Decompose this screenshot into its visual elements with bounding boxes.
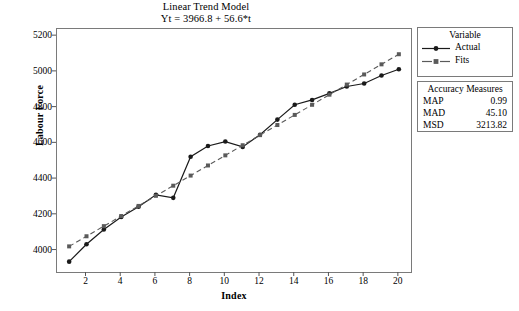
accuracy-value-msd: 3213.82 — [476, 119, 507, 131]
accuracy-row-mad: MAD 45.10 — [418, 107, 512, 119]
accuracy-value-map: 0.99 — [490, 95, 507, 107]
legend-item-actual[interactable]: Actual — [418, 41, 512, 54]
x-axis-tick-labels: 2468101214161820 — [0, 276, 519, 290]
x-tick-label: 20 — [386, 276, 410, 286]
x-tick-label: 2 — [74, 276, 98, 286]
x-tick-label: 8 — [178, 276, 202, 286]
chart-title: Linear Trend Model — [0, 1, 412, 13]
x-tick-label: 16 — [316, 276, 340, 286]
plot-svg — [57, 29, 411, 272]
accuracy-label-map: MAP — [423, 95, 444, 107]
y-tick-label: 4000 — [12, 245, 52, 255]
x-tick-label: 6 — [143, 276, 167, 286]
y-tick-label: 5200 — [12, 30, 52, 40]
accuracy-label-msd: MSD — [423, 119, 444, 131]
y-tick-label: 4600 — [12, 137, 52, 147]
legend-label-actual: Actual — [451, 41, 480, 54]
chart-subtitle-equation: Yt = 3966.8 + 56.6*t — [0, 13, 412, 25]
x-tick-label: 18 — [351, 276, 375, 286]
plot-area — [56, 28, 412, 273]
x-tick-label: 10 — [212, 276, 236, 286]
accuracy-row-msd: MSD 3213.82 — [418, 119, 512, 131]
y-tick-label: 4400 — [12, 173, 52, 183]
legend-label-fits: Fits — [451, 54, 469, 67]
accuracy-measures-title: Accuracy Measures — [418, 82, 512, 95]
accuracy-row-map: MAP 0.99 — [418, 95, 512, 107]
y-tick-label: 4200 — [12, 209, 52, 219]
legend-title: Variable — [418, 28, 512, 41]
accuracy-label-mad: MAD — [423, 107, 445, 119]
x-tick-label: 4 — [108, 276, 132, 286]
y-tick-label: 5000 — [12, 66, 52, 76]
legend-item-fits[interactable]: Fits — [418, 54, 512, 67]
chart-title-block: Linear Trend Model Yt = 3966.8 + 56.6*t — [0, 1, 412, 25]
accuracy-value-mad: 45.10 — [486, 107, 507, 119]
legend-panel: Variable Actual Fits — [417, 27, 513, 77]
x-tick-label: 12 — [247, 276, 271, 286]
y-tick-label: 4800 — [12, 102, 52, 112]
accuracy-measures-panel: Accuracy Measures MAP 0.99 MAD 45.10 MSD… — [417, 81, 513, 132]
y-axis-tick-labels: 4000420044004600480050005200 — [8, 0, 52, 311]
x-tick-label: 14 — [282, 276, 306, 286]
x-axis-label: Index — [56, 290, 412, 301]
legend-key-dashed-line-icon — [421, 54, 451, 67]
linear-trend-chart: Linear Trend Model Yt = 3966.8 + 56.6*t … — [0, 0, 519, 311]
legend-key-solid-line-icon — [421, 41, 451, 54]
